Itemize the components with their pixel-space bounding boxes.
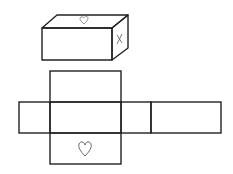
net-top-flap xyxy=(50,71,121,102)
net-far-right-face xyxy=(151,102,221,133)
box-and-net-diagram xyxy=(0,0,233,174)
box-front-face xyxy=(42,28,112,60)
net-bottom-flap xyxy=(50,133,121,164)
cuboid-drawing xyxy=(42,15,128,60)
heart-icon xyxy=(80,17,88,25)
heart-icon xyxy=(79,142,92,156)
box-net xyxy=(19,71,221,164)
net-right-flap xyxy=(121,102,151,133)
net-center-face xyxy=(50,102,121,133)
net-left-flap xyxy=(19,102,50,133)
x-mark xyxy=(117,34,122,44)
